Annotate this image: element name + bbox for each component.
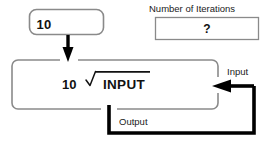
input-arrowhead-icon <box>212 80 231 93</box>
input-label: Input <box>227 67 248 77</box>
diagram-canvas: 10 Number of Iterations ? 10 INPUT Input… <box>0 0 265 141</box>
seed-arrow-icon <box>63 35 74 62</box>
iterations-label: Number of Iterations <box>149 4 235 14</box>
seed-value-text: 10 <box>0 18 88 31</box>
output-label: Output <box>119 117 148 127</box>
formula-coefficient: 10 <box>62 78 76 91</box>
iterations-value-text: ? <box>156 23 258 35</box>
formula-radicand: INPUT <box>103 78 145 92</box>
